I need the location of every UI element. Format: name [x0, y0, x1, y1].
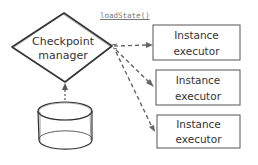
executor-1-line1: Instance	[153, 29, 240, 41]
checkpoint-manager-label: Checkpoint manager	[22, 35, 104, 63]
arrowhead-icon	[146, 42, 153, 48]
executor-2-line1: Instance	[156, 74, 240, 86]
executor-2-line2: executor	[156, 90, 240, 102]
executor-label-2: Instance executor	[156, 74, 240, 102]
executor-label-1: Instance executor	[153, 29, 240, 57]
load-state-call-label: loadState()	[100, 11, 150, 20]
storage-cylinder-icon	[38, 102, 92, 149]
checkpoint-manager-line2: manager	[22, 49, 104, 63]
storage-to-manager-arrow	[62, 83, 68, 100]
arrowhead-icon	[149, 125, 155, 132]
checkpoint-manager-line1: Checkpoint	[22, 35, 104, 49]
arrowhead-icon	[62, 83, 68, 90]
executor-1-line2: executor	[153, 45, 240, 57]
dashed-arrows	[114, 45, 152, 127]
executor-label-3: Instance executor	[157, 118, 240, 145]
executor-3-line1: Instance	[157, 118, 240, 130]
executor-3-line2: executor	[157, 133, 240, 145]
